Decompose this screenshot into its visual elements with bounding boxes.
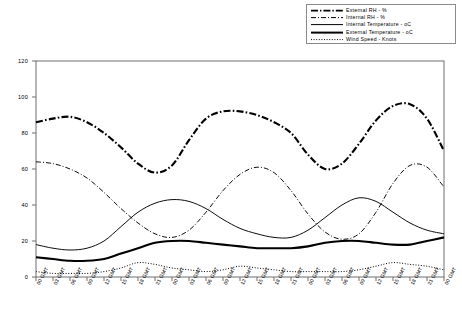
y-tick-label: 40 xyxy=(10,202,28,208)
legend-label-internal-rh: Internal RH - % xyxy=(346,14,385,21)
legend-swatch-thin-solid xyxy=(310,21,344,28)
series-line-external-rh xyxy=(36,103,444,172)
legend-swatch-thick-dash-dot xyxy=(310,7,344,14)
legend-label-external-rh: External RH - % xyxy=(346,7,387,14)
legend-item-wind-speed: Wind Speed - Knots xyxy=(310,36,452,43)
y-tick-label: 20 xyxy=(10,238,28,244)
y-axis-ticks xyxy=(32,61,36,277)
series-line-external-temperature-oc xyxy=(36,237,444,261)
legend-label-external-temperature: External Temperature - oC xyxy=(346,29,413,36)
y-tick-label: 0 xyxy=(10,274,28,280)
y-tick-label: 100 xyxy=(10,94,28,100)
legend-swatch-thin-dash-dot xyxy=(310,14,344,21)
legend-swatch-thick-solid xyxy=(310,29,344,36)
legend-item-external-rh: External RH - % xyxy=(310,7,452,14)
legend-item-internal-temperature: Internal Temperature - oC xyxy=(310,21,452,28)
y-tick-label: 80 xyxy=(10,130,28,136)
series-line-internal-rh xyxy=(36,162,444,239)
legend-item-internal-rh: Internal RH - % xyxy=(310,14,452,21)
legend-label-wind-speed: Wind Speed - Knots xyxy=(346,36,397,43)
legend-swatch-dotted xyxy=(310,36,344,43)
chart-legend: External RH - % Internal RH - % Internal… xyxy=(306,4,456,44)
chart-container: 020406080100120 00 GMT03 GMT06 GMT09 GMT… xyxy=(0,0,462,317)
legend-label-internal-temperature: Internal Temperature - oC xyxy=(346,21,411,28)
data-series-group xyxy=(36,103,444,273)
series-line-internal-temperature-oc xyxy=(36,198,444,250)
y-tick-label: 60 xyxy=(10,166,28,172)
legend-item-external-temperature: External Temperature - oC xyxy=(310,29,452,36)
y-tick-label: 120 xyxy=(10,58,28,64)
